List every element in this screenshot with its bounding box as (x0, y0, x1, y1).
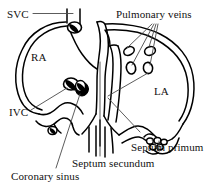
leader-la-upper (108, 73, 148, 96)
label-septum-primum: Septum primum (131, 142, 204, 153)
svc-orifice-valve (68, 22, 82, 33)
central-atrial-floor (82, 114, 119, 157)
label-inferior-vena-cava: IVC (9, 107, 28, 118)
anatomical-diagram-figure: SVC Pulmonary veins RA LA IVC Septum pri… (0, 0, 221, 192)
leader-la-lower (108, 98, 140, 132)
label-coronary-sinus: Coronary sinus (11, 171, 79, 182)
leader-ivc (31, 88, 67, 110)
ivc-orifice-valve (64, 78, 89, 96)
leader-pv-2 (132, 24, 154, 65)
label-svc: SVC (7, 9, 29, 20)
label-pulmonary-veins: Pulmonary veins (116, 9, 192, 20)
label-left-atrium: LA (154, 86, 169, 97)
label-septum-secundum: Septum secundum (72, 158, 154, 169)
right-atrium-outline (16, 22, 67, 114)
label-right-atrium: RA (31, 52, 46, 63)
coronary-sinus-orifice (48, 127, 57, 135)
